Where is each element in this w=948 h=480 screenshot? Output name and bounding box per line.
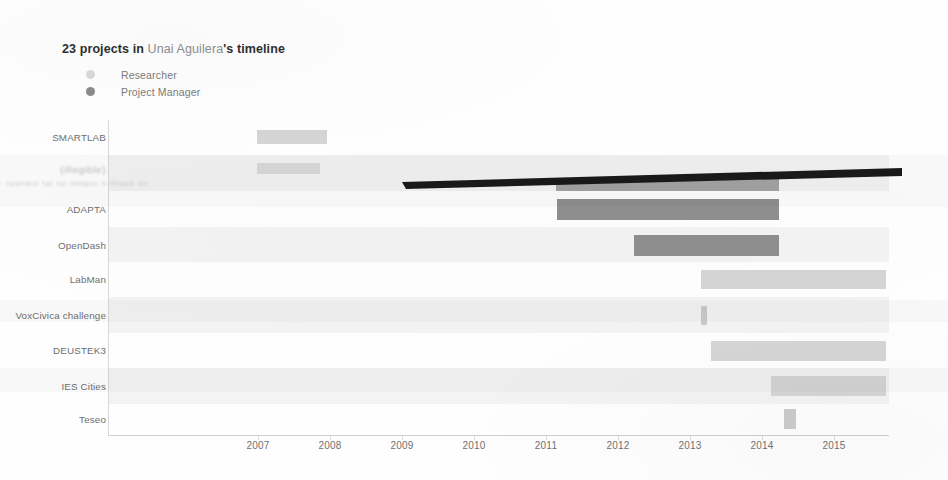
axis-tick-label-2014: 2014 xyxy=(750,440,773,451)
bar-ies-cities-researcher[interactable] xyxy=(771,376,886,396)
bar-teseo-researcher[interactable] xyxy=(784,409,796,429)
bar-obscured-researcher[interactable] xyxy=(257,163,320,174)
chart-row: ADAPTA xyxy=(109,191,889,227)
axis-tick-label-2009: 2009 xyxy=(390,440,413,451)
title-suffix: 's timeline xyxy=(223,42,285,56)
legend-item-label: Researcher xyxy=(121,69,177,81)
axis-tick-label-2012: 2012 xyxy=(606,440,629,451)
bar-deustek3-researcher[interactable] xyxy=(711,341,886,361)
row-label-voxcivica-challenge: VoxCivica challenge xyxy=(15,310,106,321)
row-label-deustek3: DEUSTEK3 xyxy=(53,345,106,356)
row-label-opendash: OpenDash xyxy=(58,240,106,251)
row-label-obscured: (illegible) xyxy=(60,164,106,175)
person-name: Unai Aguilera xyxy=(148,42,224,56)
axis-tick-label-2015: 2015 xyxy=(822,440,845,451)
legend-item-label: Project Manager xyxy=(121,86,200,98)
bar-smartlab-researcher[interactable] xyxy=(257,130,327,144)
project-count-text: 23 projects in xyxy=(62,42,144,56)
bar-adapta-manager[interactable] xyxy=(557,199,779,220)
legend: Researcher Project Manager xyxy=(86,66,200,100)
row-label-ies-cities: IES Cities xyxy=(61,381,106,392)
row-label-labman: LabMan xyxy=(70,274,106,285)
chart-row: LabMan xyxy=(109,262,889,297)
scanned-page: 23 projects in Unai Aguilera's timeline … xyxy=(0,0,948,480)
legend-dot-icon xyxy=(86,70,95,79)
axis-tick-label-2010: 2010 xyxy=(462,440,485,451)
chart-row: DEUSTEK3 xyxy=(109,333,889,368)
legend-item-project-manager[interactable]: Project Manager xyxy=(86,83,200,100)
bar-labman-researcher[interactable] xyxy=(701,270,886,289)
bar-opendash-manager[interactable] xyxy=(634,235,779,256)
row-label-ghost-text: ~ tuletikci tat tsi tiktaon ti Phack thi xyxy=(0,180,149,187)
page-title: 23 projects in Unai Aguilera's timeline xyxy=(62,42,285,56)
legend-dot-icon xyxy=(86,87,95,96)
timeline-chart-plot: SMARTLAB (illegible) ~ tuletikci tat tsi… xyxy=(108,120,889,436)
chart-row: (illegible) ~ tuletikci tat tsi tiktaon … xyxy=(109,155,889,191)
bar-obscured-manager[interactable] xyxy=(556,179,779,191)
x-axis: 2007 2008 2009 2010 2011 2012 2013 2014 … xyxy=(108,440,889,460)
chart-row: OpenDash xyxy=(109,227,889,262)
row-label-adapta: ADAPTA xyxy=(67,204,106,215)
bar-voxcivica-researcher[interactable] xyxy=(701,306,707,325)
legend-item-researcher[interactable]: Researcher xyxy=(86,66,200,83)
axis-tick-label-2007: 2007 xyxy=(246,440,269,451)
row-label-smartlab: SMARTLAB xyxy=(52,132,106,143)
chart-row: IES Cities xyxy=(109,368,889,404)
chart-row: Teseo xyxy=(109,404,889,436)
axis-tick-label-2008: 2008 xyxy=(318,440,341,451)
chart-row: SMARTLAB xyxy=(109,120,889,155)
chart-row: VoxCivica challenge xyxy=(109,297,889,333)
axis-tick-label-2013: 2013 xyxy=(678,440,701,451)
axis-tick-label-2011: 2011 xyxy=(535,440,557,451)
row-label-teseo: Teseo xyxy=(79,414,106,425)
